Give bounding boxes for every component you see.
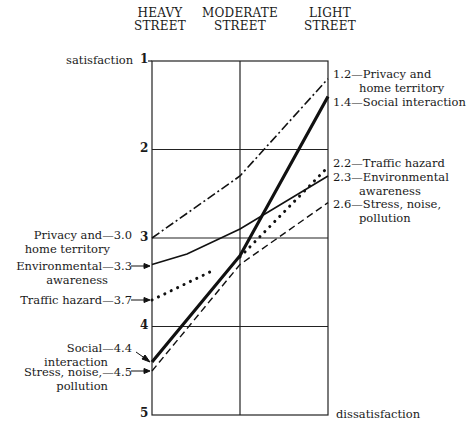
chart-grid <box>152 61 328 415</box>
right-label-stress: 2.6—Stress, noise, pollution <box>333 197 441 225</box>
right-label-traffic: 2.2—Traffic hazard <box>333 156 445 170</box>
series-traffic-line-a <box>152 271 212 300</box>
right-label-environmental-line2: awareness <box>333 184 449 198</box>
right-label-stress-line1: 2.6—Stress, noise, <box>333 197 441 211</box>
y-tick-5: 5 <box>140 406 148 420</box>
right-label-privacy-line2: home territory <box>333 81 444 95</box>
right-label-environmental-line1: 2.3—Environmental <box>333 170 449 184</box>
right-label-environmental: 2.3—Environmental awareness <box>333 170 449 198</box>
y-tick-3: 3 <box>140 230 148 244</box>
left-label-environmental: Environmental—3.3 awareness <box>16 259 132 287</box>
right-label-privacy-line1: 1.2—Privacy and <box>333 67 444 81</box>
left-label-privacy-line1: Privacy and—3.0 <box>25 228 132 242</box>
left-label-environmental-line2: awareness <box>16 273 108 287</box>
left-label-traffic: Traffic hazard—3.7 <box>20 293 132 307</box>
y-tick-1: 1 <box>140 52 148 66</box>
y-axis-bottom-label: dissatisfaction <box>336 407 420 421</box>
left-label-stress-line1: Stress, noise,—4.5 <box>24 365 132 379</box>
left-label-privacy-line2: home territory <box>25 242 110 256</box>
right-label-privacy: 1.2—Privacy and home territory <box>333 67 444 95</box>
left-label-environmental-line1: Environmental—3.3 <box>16 259 132 273</box>
series-traffic-line-b <box>240 167 328 257</box>
right-label-stress-line2: pollution <box>333 211 441 225</box>
y-tick-4: 4 <box>140 318 148 332</box>
left-label-privacy: Privacy and—3.0 home territory <box>25 228 132 256</box>
y-axis-top-label: satisfaction <box>66 53 133 67</box>
left-label-stress-line2: pollution <box>24 379 108 393</box>
left-label-social-line1: Social—4.4 <box>44 341 132 355</box>
right-label-social: 1.4—Social interaction <box>333 95 466 109</box>
y-tick-2: 2 <box>140 141 148 155</box>
left-label-stress: Stress, noise,—4.5 pollution <box>24 365 132 393</box>
